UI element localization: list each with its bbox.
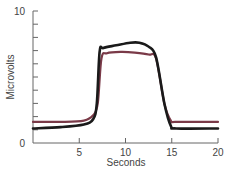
x-axis-label: Seconds	[107, 157, 146, 168]
x-tick-label: 20	[212, 147, 224, 158]
x-tick-label: 5	[76, 147, 82, 158]
y-tick-label: 0	[19, 138, 25, 149]
line-chart: 0105101520 Seconds Microvolts	[0, 0, 231, 172]
y-tick-label: 10	[14, 6, 26, 17]
series-maroon-line	[33, 52, 218, 122]
plot-area	[33, 42, 218, 128]
x-tick-label: 15	[166, 147, 178, 158]
y-axis-label: Microvolts	[5, 54, 16, 99]
axes: 0105101520	[14, 6, 224, 158]
series-black-line	[33, 42, 218, 128]
